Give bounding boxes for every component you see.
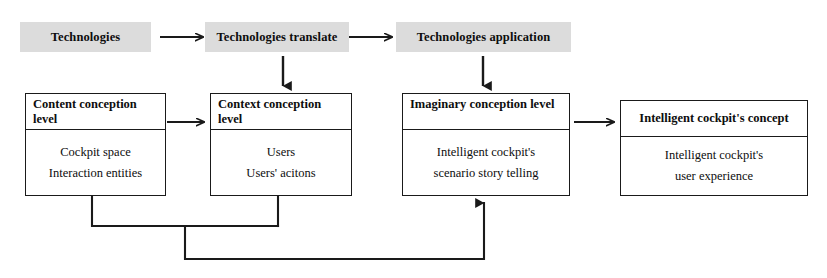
stage-label-text: Technologies xyxy=(51,30,121,45)
box-context-conception-level[interactable]: Context conception level Users Users' ac… xyxy=(210,93,352,196)
box-intelligent-cockpit-concept[interactable]: Intelligent cockpit's concept Intelligen… xyxy=(620,100,808,196)
box-body-line: Interaction entities xyxy=(49,166,142,181)
box-body-intelligent-cockpit-concept: Intelligent cockpit's user experience xyxy=(621,137,807,195)
box-body-content-conception-level: Cockpit space Interaction entities xyxy=(26,130,165,195)
stage-label-technologies-translate[interactable]: Technologies translate xyxy=(205,22,349,52)
connector-box1-box2-to-box3 xyxy=(92,196,484,259)
box-body-line: Users xyxy=(267,145,295,160)
box-imaginary-conception-level[interactable]: Imaginary conception level Intelligent c… xyxy=(402,93,570,196)
box-body-context-conception-level: Users Users' acitons xyxy=(211,130,351,195)
box-body-line: Users' acitons xyxy=(246,166,315,181)
stage-label-text: Technologies translate xyxy=(217,30,338,45)
box-body-line: Intelligent cockpit's xyxy=(665,148,763,163)
box-header-content-conception-level: Content conception level xyxy=(26,94,165,130)
box-header-intelligent-cockpit-concept: Intelligent cockpit's concept xyxy=(621,101,807,137)
box-body-line: Cockpit space xyxy=(60,145,130,160)
box-body-line: Intelligent cockpit's xyxy=(437,145,535,160)
box-body-line: user experience xyxy=(675,169,753,184)
diagram-canvas: Technologies Technologies translate Tech… xyxy=(0,0,827,278)
box-body-line: scenario story telling xyxy=(434,166,539,181)
box-body-imaginary-conception-level: Intelligent cockpit's scenario story tel… xyxy=(403,130,569,195)
box-content-conception-level[interactable]: Content conception level Cockpit space I… xyxy=(25,93,166,196)
stage-label-technologies[interactable]: Technologies xyxy=(20,22,151,52)
stage-label-text: Technologies application xyxy=(417,30,551,45)
box-header-context-conception-level: Context conception level xyxy=(211,94,351,130)
box-header-imaginary-conception-level: Imaginary conception level xyxy=(403,94,569,130)
stage-label-technologies-application[interactable]: Technologies application xyxy=(396,22,571,52)
